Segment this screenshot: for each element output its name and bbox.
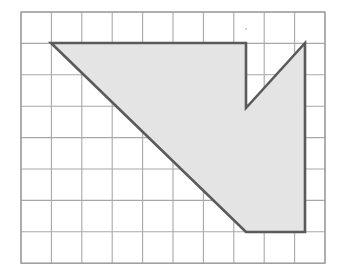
scan-speck-icon	[245, 28, 247, 30]
figure-container	[0, 0, 340, 274]
grid-figure-svg	[0, 0, 340, 274]
